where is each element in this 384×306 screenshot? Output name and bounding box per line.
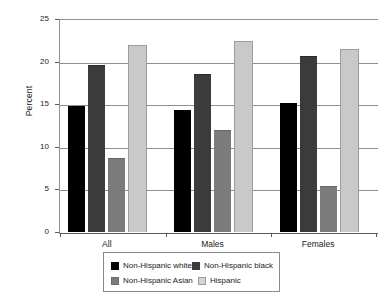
bar <box>280 103 297 232</box>
bar <box>174 110 191 232</box>
bar <box>194 74 211 232</box>
y-axis-tick-label: 10 <box>9 143 49 151</box>
bar <box>300 56 317 233</box>
y-axis-tick-mark <box>55 62 59 63</box>
y-axis-tick-mark <box>55 232 59 233</box>
legend-item-non-hispanic-asian: Non-Hispanic Asian <box>111 273 198 288</box>
y-axis-tick-label: 0 <box>9 228 49 236</box>
y-axis-tick-mark <box>55 19 59 20</box>
bar <box>108 158 125 232</box>
x-axis-category-label: All <box>67 239 147 249</box>
bar <box>320 186 337 232</box>
y-axis-tick-mark <box>55 147 59 148</box>
y-axis-title: Percent <box>24 71 34 131</box>
legend-swatch-icon <box>192 262 200 270</box>
bar <box>214 130 231 232</box>
chart-legend: Non-Hispanic white Non-Hispanic black No… <box>103 252 280 292</box>
bar <box>88 65 105 232</box>
bar <box>234 41 253 232</box>
y-axis-tick-label: 25 <box>9 15 49 23</box>
y-axis-tick-label: 20 <box>9 58 49 66</box>
legend-swatch-icon <box>111 277 119 285</box>
legend-item-hispanic: Hispanic <box>198 273 272 288</box>
bar <box>128 45 147 232</box>
x-axis: AllMalesFemales <box>60 233 377 253</box>
x-axis-tick-mark <box>271 233 272 237</box>
legend-swatch-icon <box>198 277 206 285</box>
y-axis-tick-mark <box>55 104 59 105</box>
x-axis-tick-mark <box>60 233 61 237</box>
bar-chart-figure: 0510152025 Percent AllMalesFemales Non-H… <box>0 0 384 306</box>
x-axis-tick-mark <box>376 233 377 237</box>
legend-item-non-hispanic-black: Non-Hispanic black <box>192 258 272 273</box>
legend-item-label: Non-Hispanic Asian <box>123 276 193 285</box>
bar <box>340 49 359 232</box>
bars-layer <box>60 19 377 232</box>
legend-item-label: Non-Hispanic white <box>123 261 192 270</box>
legend-row: Non-Hispanic white Non-Hispanic black <box>111 258 272 273</box>
x-axis-category-label: Males <box>173 239 253 249</box>
legend-item-label: Non-Hispanic black <box>204 261 273 270</box>
legend-item-label: Hispanic <box>210 276 241 285</box>
legend-item-non-hispanic-white: Non-Hispanic white <box>111 258 192 273</box>
y-axis-tick-mark <box>55 189 59 190</box>
bar <box>68 106 85 232</box>
y-axis-tick-label: 5 <box>9 185 49 193</box>
x-axis-category-label: Females <box>278 239 358 249</box>
legend-row: Non-Hispanic Asian Hispanic <box>111 273 272 288</box>
x-axis-tick-mark <box>166 233 167 237</box>
legend-swatch-icon <box>111 262 119 270</box>
